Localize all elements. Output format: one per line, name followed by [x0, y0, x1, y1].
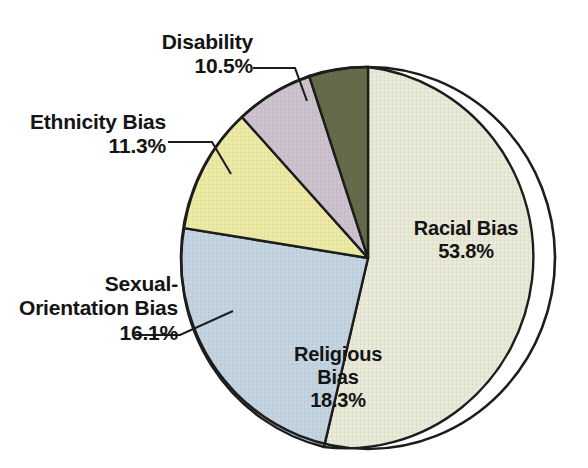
callout-label-ethnicity-bias: Ethnicity Bias 11.3%	[18, 110, 166, 159]
callout-label-sexual-orientation-bias: Sexual- Orientation Bias 16.1%	[5, 272, 178, 345]
pie-chart-figure: Disability 10.5% Ethnicity Bias 11.3% Se…	[0, 0, 588, 468]
callout-label-disability: Disability 10.5%	[150, 30, 253, 79]
slice-label-racial-bias: Racial Bias 53.8%	[398, 217, 534, 263]
slice-label-religious-bias: Religious Bias 18.3%	[280, 343, 396, 413]
